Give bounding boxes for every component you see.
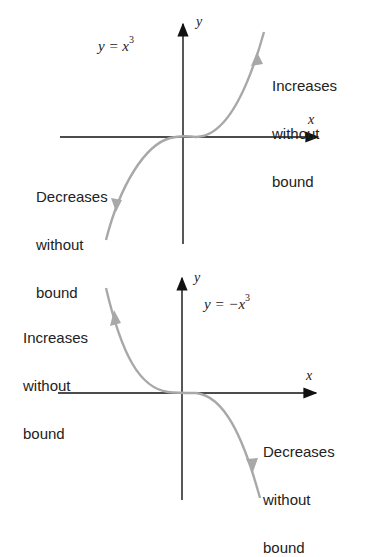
graph-y-equals-x-cubed: y = x3 y x Increases without bound Decre… <box>0 0 373 256</box>
arrow-up-icon <box>251 52 263 66</box>
equation-label: y = x3 <box>98 36 134 55</box>
increases-annotation: Increases without bound <box>23 298 88 474</box>
equation-label: y = −x3 <box>204 294 250 313</box>
y-axis-label: y <box>194 270 200 286</box>
y-axis-label: y <box>196 14 202 30</box>
graph-y-equals-negative-x-cubed: y = −x3 y x Increases without bound Decr… <box>0 256 373 513</box>
curve-x-cubed <box>106 32 264 240</box>
arrow-down-icon <box>111 198 122 212</box>
increases-annotation: Increases without bound <box>272 46 337 222</box>
x-axis-label: x <box>306 368 312 384</box>
decreases-annotation: Decreases without bound <box>263 412 335 557</box>
arrow-down-icon <box>246 458 258 472</box>
